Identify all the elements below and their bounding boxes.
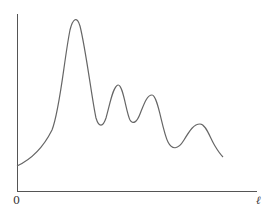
x-origin-label: 0 xyxy=(13,194,20,207)
x-axis-label: ℓ xyxy=(256,194,261,207)
data-curve xyxy=(17,20,223,166)
chart-canvas xyxy=(0,0,271,216)
